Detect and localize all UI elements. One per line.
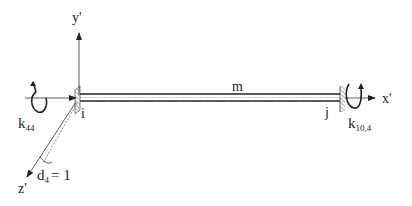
node-i-label: i <box>81 106 85 121</box>
y-axis: y' <box>72 10 82 95</box>
moment-arrowhead-icon <box>30 81 36 86</box>
y-axis-label: y' <box>72 10 82 25</box>
node-j-label: j <box>324 105 329 120</box>
member-label: m <box>232 79 243 94</box>
z-axis-label: z' <box>18 181 27 196</box>
right-support: j <box>324 86 345 120</box>
moment-arrowhead-icon <box>358 83 364 89</box>
moment-k104: k10,4 <box>346 83 371 133</box>
moment-k44: k44 <box>18 81 47 133</box>
beam-diagram: y' m i j x' k44 k <box>0 0 412 206</box>
k44-label: k44 <box>18 115 35 133</box>
rotation-d4: d4= 1 <box>37 157 71 185</box>
x-axis-right: x' <box>345 91 392 106</box>
beam-member: m <box>80 79 340 101</box>
k104-label: k10,4 <box>348 115 372 133</box>
d4-label: d4= 1 <box>37 167 71 185</box>
x-axis-label: x' <box>382 91 392 106</box>
